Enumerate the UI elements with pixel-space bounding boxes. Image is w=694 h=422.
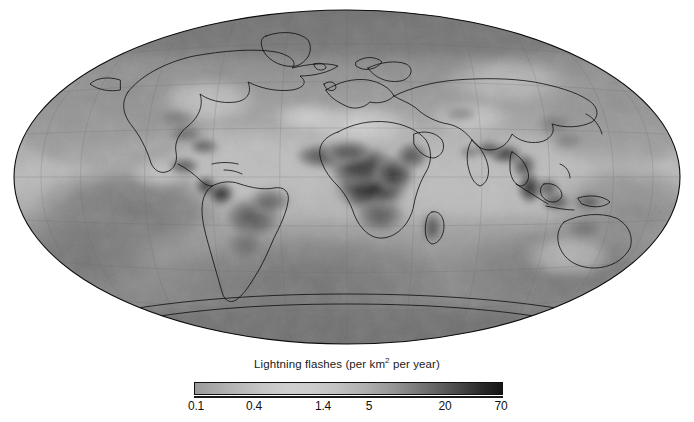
colorbar-tick-3: 5 [366, 399, 372, 413]
lightning-flash-density-figure: Lightning flashes (per km2 per year) 0.1… [0, 0, 694, 422]
legend-title-prefix: Lightning flashes (per km [254, 358, 385, 370]
colorbar-tick-4: 20 [439, 399, 452, 413]
colorbar-container [194, 382, 503, 395]
legend-title-suffix: per year) [390, 358, 440, 370]
colorbar-tick-5: 70 [495, 399, 508, 413]
colorbar-tick-0: 0.1 [188, 399, 204, 413]
colorbar-gradient [194, 382, 503, 395]
legend-title: Lightning flashes (per km2 per year) [0, 358, 694, 370]
map-data-layer [8, 6, 686, 350]
world-map-panel [8, 6, 686, 350]
colorbar-axis-line [194, 396, 503, 398]
legend: Lightning flashes (per km2 per year) 0.1… [0, 352, 694, 422]
mollweide-map [8, 6, 686, 350]
colorbar-tick-2: 1.4 [315, 399, 331, 413]
colorbar-tick-1: 0.4 [246, 399, 262, 413]
